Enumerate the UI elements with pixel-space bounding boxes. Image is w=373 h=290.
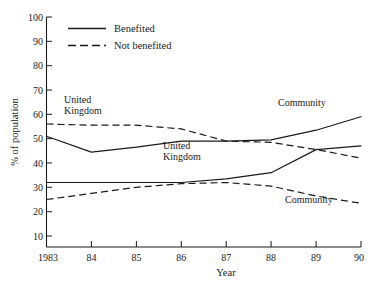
annotation-united-kingdom-lower-line2: Kingdom [163, 151, 201, 162]
y-tick-label-60: 60 [33, 109, 43, 120]
annotation-community-lower: Community [285, 194, 333, 205]
x-tick-label-1985: 85 [131, 252, 141, 263]
y-tick-label-10: 10 [33, 231, 43, 242]
x-tick-label-1984: 84 [86, 252, 96, 263]
y-tick-label-20: 20 [33, 206, 43, 217]
x-axis-ticks [47, 241, 362, 247]
annotation-community-upper: Community [278, 97, 326, 108]
x-tick-label-1987: 87 [221, 252, 231, 263]
y-axis-title: % of population [9, 97, 20, 165]
y-tick-label-90: 90 [33, 36, 43, 47]
y-tick-label-70: 70 [33, 85, 43, 96]
x-axis-tick-labels: 1983 84 85 86 87 88 89 90 [38, 252, 364, 263]
y-axis-tick-labels: 100 90 80 70 60 50 40 30 20 10 [28, 12, 43, 242]
x-axis-title: Year [216, 267, 236, 278]
x-tick-label-1989: 89 [311, 252, 321, 263]
x-tick-label-1983: 1983 [38, 252, 58, 263]
axes [47, 17, 362, 247]
y-axis-ticks [47, 17, 53, 236]
annotation-united-kingdom-lower-line1: United [163, 140, 190, 151]
legend-label-not-benefited: Not benefited [114, 40, 172, 51]
line-chart-canvas: 100 90 80 70 60 50 40 30 20 10 1983 84 8 [0, 0, 373, 290]
legend: Benefited Not benefited [68, 23, 172, 51]
y-tick-label-100: 100 [28, 12, 43, 23]
data-series-group [47, 117, 362, 204]
annotations-group: United Kingdom United Kingdom Community … [64, 94, 333, 205]
y-tick-label-50: 50 [33, 133, 43, 144]
x-tick-label-1990: 90 [354, 252, 364, 263]
annotation-united-kingdom-upper-line1: United [64, 94, 91, 105]
y-tick-label-40: 40 [33, 158, 43, 169]
annotation-united-kingdom-upper-line2: Kingdom [64, 105, 102, 116]
y-tick-label-80: 80 [33, 60, 43, 71]
chart-figure: 100 90 80 70 60 50 40 30 20 10 1983 84 8 [0, 0, 373, 290]
legend-label-benefited: Benefited [114, 23, 156, 34]
y-tick-label-30: 30 [33, 182, 43, 193]
x-tick-label-1988: 88 [266, 252, 276, 263]
x-tick-label-1986: 86 [176, 252, 186, 263]
